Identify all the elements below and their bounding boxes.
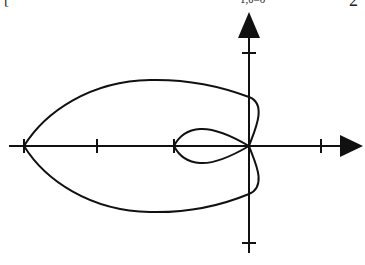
x-axis-arrow-icon	[340, 135, 363, 157]
y-axis-arrow-icon	[238, 12, 260, 38]
polar-plot	[0, 0, 365, 265]
